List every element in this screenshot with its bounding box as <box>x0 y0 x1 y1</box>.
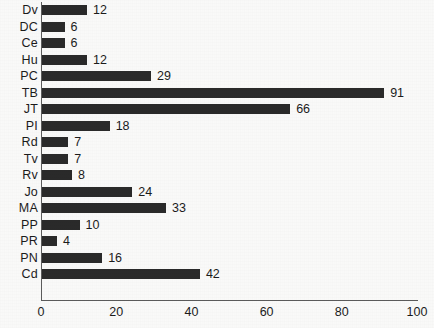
bar-value-label: 7 <box>74 134 81 151</box>
bar-row: TB91 <box>0 85 434 102</box>
x-axis-line <box>41 300 418 301</box>
bar <box>42 220 80 230</box>
bar-row: PI18 <box>0 118 434 135</box>
bar-row: Rd7 <box>0 134 434 151</box>
bar-row: Jo24 <box>0 184 434 201</box>
bar-value-label: 24 <box>138 184 152 201</box>
bar-value-label: 4 <box>63 233 70 250</box>
bar <box>42 121 110 131</box>
bar <box>42 269 200 279</box>
category-label: Hu <box>0 52 38 69</box>
bar-row: MA33 <box>0 200 434 217</box>
bar-value-label: 29 <box>157 68 171 85</box>
bar-chart: Dv12DC6Ce6Hu12PC29TB91JT66PI18Rd7Tv7Rv8J… <box>0 0 434 328</box>
category-label: Jo <box>0 184 38 201</box>
category-label: TB <box>0 85 38 102</box>
category-label: Rv <box>0 167 38 184</box>
x-tick-label: 0 <box>21 304 61 320</box>
category-label: Dv <box>0 2 38 19</box>
bar-value-label: 6 <box>71 35 78 52</box>
bar <box>42 55 87 65</box>
bar-value-label: 12 <box>93 2 107 19</box>
bar-row: Rv8 <box>0 167 434 184</box>
category-label: Cd <box>0 266 38 283</box>
category-label: MA <box>0 200 38 217</box>
bar-row: PP10 <box>0 217 434 234</box>
bar <box>42 38 65 48</box>
category-label: PC <box>0 68 38 85</box>
bar-value-label: 18 <box>116 118 130 135</box>
bar <box>42 71 151 81</box>
bar <box>42 170 72 180</box>
category-label: JT <box>0 101 38 118</box>
bar <box>42 187 132 197</box>
bar-row: Hu12 <box>0 52 434 69</box>
bar <box>42 22 65 32</box>
bar <box>42 253 102 263</box>
category-label: Rd <box>0 134 38 151</box>
bar-row: PR4 <box>0 233 434 250</box>
bar-row: Tv7 <box>0 151 434 168</box>
bar-row: PC29 <box>0 68 434 85</box>
bar-value-label: 10 <box>86 217 100 234</box>
plot-area: Dv12DC6Ce6Hu12PC29TB91JT66PI18Rd7Tv7Rv8J… <box>0 0 434 328</box>
bar-value-label: 16 <box>108 250 122 267</box>
category-label: PR <box>0 233 38 250</box>
bar-row: Dv12 <box>0 2 434 19</box>
x-tick-label: 20 <box>96 304 136 320</box>
x-tick-label: 100 <box>397 304 434 320</box>
bar <box>42 137 68 147</box>
bar-value-label: 12 <box>93 52 107 69</box>
bar-value-label: 6 <box>71 19 78 36</box>
bar-value-label: 7 <box>74 151 81 168</box>
category-label: PP <box>0 217 38 234</box>
bar-value-label: 33 <box>172 200 186 217</box>
bar-row: PN16 <box>0 250 434 267</box>
bar-value-label: 66 <box>296 101 310 118</box>
category-label: PI <box>0 118 38 135</box>
bar-row: DC6 <box>0 19 434 36</box>
bar-value-label: 91 <box>390 85 404 102</box>
bar <box>42 88 384 98</box>
x-tick-label: 80 <box>322 304 362 320</box>
category-label: PN <box>0 250 38 267</box>
x-tick-label: 60 <box>247 304 287 320</box>
bar-value-label: 8 <box>78 167 85 184</box>
bar <box>42 154 68 164</box>
bar <box>42 104 290 114</box>
x-tick-label: 40 <box>171 304 211 320</box>
bar-row: Cd42 <box>0 266 434 283</box>
category-label: Tv <box>0 151 38 168</box>
bar-row: JT66 <box>0 101 434 118</box>
bar-value-label: 42 <box>206 266 220 283</box>
bar <box>42 5 87 15</box>
category-label: Ce <box>0 35 38 52</box>
bar-row: Ce6 <box>0 35 434 52</box>
bar <box>42 203 166 213</box>
category-label: DC <box>0 19 38 36</box>
bar <box>42 236 57 246</box>
